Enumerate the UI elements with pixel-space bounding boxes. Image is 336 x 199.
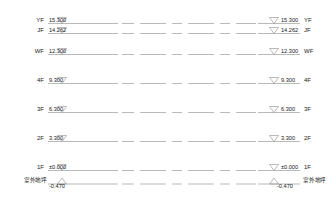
elevation-value-right-3f: 6.300: [281, 106, 295, 112]
level-label-left-2f: 2F: [37, 135, 44, 142]
level-label-right-wf: WF: [304, 48, 313, 55]
elevation-value-left-wf: 12.300: [49, 48, 66, 54]
level-label-left-ground: 室外地坪: [24, 177, 47, 184]
elevation-value-right-jf: 14.262: [281, 27, 298, 33]
level-label-right-3f: 3F: [304, 106, 311, 113]
level-label-right-2f: 2F: [304, 135, 311, 142]
elevation-value-left-1f: ±0.000: [49, 164, 66, 170]
level-label-right-4f: 4F: [304, 77, 311, 84]
level-label-right-ground: 室外地坪: [303, 177, 326, 184]
elevation-value-right-wf: 12.300: [281, 48, 298, 54]
level-label-right-jf: JF: [304, 27, 311, 34]
elevation-value-left-jf: 14.262: [49, 27, 66, 33]
elevation-value-right-1f: ±0.000: [281, 164, 298, 170]
level-label-right-1f: 1F: [304, 164, 311, 171]
level-label-left-jf: JF: [37, 27, 44, 34]
elevation-value-left-yf: 15.300: [49, 17, 66, 23]
elevation-value-left-4f: 9.300: [49, 77, 63, 83]
elevation-value-right-2f: 3.300: [281, 135, 295, 141]
elevation-value-right-yf: 15.300: [281, 17, 298, 23]
level-label-left-1f: 1F: [37, 164, 44, 171]
elevation-value-right-ground: -0.470: [277, 183, 293, 189]
elevation-value-left-3f: 6.300: [49, 106, 63, 112]
elevation-value-left-2f: 3.300: [49, 135, 63, 141]
elevation-drawing-canvas: YF15.30015.300YFJF14.26214.262JFWF12.300…: [0, 0, 336, 199]
elevation-value-right-4f: 9.300: [281, 77, 295, 83]
level-label-left-3f: 3F: [37, 106, 44, 113]
elevation-value-left-ground: -0.470: [49, 183, 65, 189]
level-label-right-yf: YF: [304, 17, 312, 24]
level-label-left-yf: YF: [36, 17, 44, 24]
level-label-left-4f: 4F: [37, 77, 44, 84]
level-label-left-wf: WF: [35, 48, 44, 55]
